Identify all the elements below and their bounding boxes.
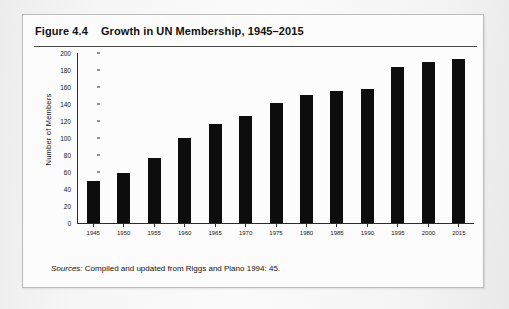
x-tick-slot: 1950: [108, 224, 138, 240]
x-tick-slot: 1985: [322, 224, 352, 240]
bar-slot: [230, 53, 260, 223]
bar-slot: [383, 53, 413, 223]
x-tick-label: 1980: [300, 230, 313, 236]
x-tick-label: 1985: [330, 230, 343, 236]
x-tick-mark: [215, 224, 216, 227]
bar-slot: [169, 53, 199, 223]
bar: [239, 116, 252, 223]
y-tick-label: 180: [60, 67, 71, 74]
x-tick-mark: [367, 224, 368, 227]
x-tick-mark: [276, 224, 277, 227]
bar: [330, 91, 343, 223]
bar: [117, 173, 130, 223]
bar: [361, 89, 374, 223]
bar: [422, 62, 435, 223]
x-axis-ticks: 1945195019551960196519701975198019851990…: [78, 224, 474, 240]
bar: [270, 103, 283, 223]
y-tick-label: 60: [64, 169, 71, 176]
y-axis-ticks: 020406080100120140160180200: [51, 53, 75, 223]
chart-plot-area: Number of Members 0204060801001201401601…: [29, 53, 479, 249]
x-tick-label: 1960: [178, 230, 191, 236]
x-tick-slot: 1945: [78, 224, 108, 240]
bar: [178, 138, 191, 223]
x-tick-mark: [123, 224, 124, 227]
bar: [391, 67, 404, 223]
bar-slot: [139, 53, 169, 223]
figure-title-text: Growth in UN Membership, 1945–2015: [101, 25, 304, 37]
y-tick-label: 80: [64, 152, 71, 159]
source-note: Sources: Compiled and updated from Riggs…: [51, 264, 280, 273]
y-tick-label: 40: [64, 186, 71, 193]
bar-slot: [413, 53, 443, 223]
bar: [452, 59, 465, 223]
x-tick-label: 2000: [422, 230, 435, 236]
y-tick-label: 20: [64, 203, 71, 210]
title-divider: [34, 46, 477, 47]
bar: [300, 95, 313, 223]
x-tick-label: 1965: [208, 230, 221, 236]
x-tick-mark: [93, 224, 94, 227]
x-tick-label: 1970: [239, 230, 252, 236]
y-tick-label: 0: [67, 220, 71, 227]
bar-slot: [444, 53, 474, 223]
x-tick-label: 1995: [391, 230, 404, 236]
y-tick-label: 200: [60, 50, 71, 57]
source-label: Sources:: [51, 264, 83, 273]
x-tick-mark: [428, 224, 429, 227]
bar-series: [78, 53, 474, 223]
x-tick-mark: [306, 224, 307, 227]
x-tick-slot: 1995: [383, 224, 413, 240]
y-tick-label: 160: [60, 84, 71, 91]
x-tick-label: 1950: [117, 230, 130, 236]
x-tick-slot: 2015: [444, 224, 474, 240]
bar: [148, 158, 161, 223]
x-tick-slot: 1965: [200, 224, 230, 240]
x-tick-label: 2015: [452, 230, 465, 236]
bar-slot: [352, 53, 382, 223]
bar-slot: [261, 53, 291, 223]
y-tick-label: 120: [60, 118, 71, 125]
bar-slot: [322, 53, 352, 223]
x-tick-mark: [184, 224, 185, 227]
x-tick-slot: 1955: [139, 224, 169, 240]
x-tick-label: 1955: [147, 230, 160, 236]
bar-slot: [291, 53, 321, 223]
y-tick-label: 140: [60, 101, 71, 108]
figure-title: Figure 4.4Growth in UN Membership, 1945–…: [35, 25, 304, 37]
x-tick-mark: [245, 224, 246, 227]
bar-slot: [108, 53, 138, 223]
x-tick-slot: 1990: [352, 224, 382, 240]
x-tick-slot: 1975: [261, 224, 291, 240]
y-tick-label: 100: [60, 135, 71, 142]
figure-box: Figure 4.4Growth in UN Membership, 1945–…: [22, 14, 484, 288]
x-tick-slot: 1970: [230, 224, 260, 240]
x-tick-label: 1975: [269, 230, 282, 236]
x-tick-slot: 2000: [413, 224, 443, 240]
bar-slot: [200, 53, 230, 223]
x-tick-mark: [458, 224, 459, 227]
source-text: Compiled and updated from Riggs and Plan…: [85, 264, 280, 273]
x-tick-label: 1990: [361, 230, 374, 236]
x-tick-slot: 1960: [169, 224, 199, 240]
bar: [87, 181, 100, 224]
x-tick-label: 1945: [87, 230, 100, 236]
figure-number: Figure 4.4: [35, 25, 88, 37]
x-tick-slot: 1980: [291, 224, 321, 240]
x-tick-mark: [397, 224, 398, 227]
bar-slot: [78, 53, 108, 223]
bar: [209, 124, 222, 223]
x-tick-mark: [336, 224, 337, 227]
x-tick-mark: [154, 224, 155, 227]
